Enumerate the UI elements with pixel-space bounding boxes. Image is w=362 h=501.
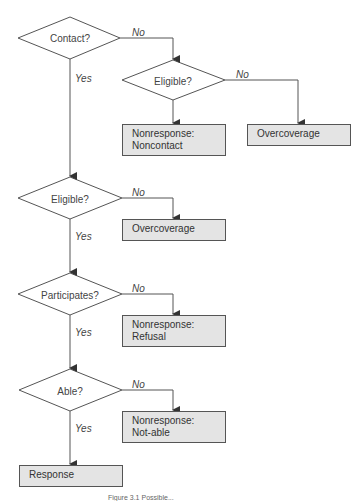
decision-contact-label: Contact? xyxy=(50,33,90,44)
edge-label-eligible-yes: Yes xyxy=(75,231,92,242)
outcome-line2: Noncontact xyxy=(132,140,225,152)
outcome-line1: Overcoverage xyxy=(132,223,225,235)
decision-able-label: Able? xyxy=(57,386,83,397)
figure-caption: Figure 3.1 Possible... xyxy=(108,494,174,501)
outcome-overcoverage-2: Overcoverage xyxy=(122,219,226,241)
outcome-line1: Response xyxy=(29,469,122,481)
outcome-line2: Refusal xyxy=(132,331,225,343)
edge-label-eligible-no: No xyxy=(132,187,145,198)
outcome-line2: Not-able xyxy=(132,427,225,439)
edge-label-participates-yes: Yes xyxy=(75,327,92,338)
edge-label-contact-yes: Yes xyxy=(75,73,92,84)
outcome-line1: Nonresponse: xyxy=(132,319,225,331)
outcome-response: Response xyxy=(19,465,123,487)
edge-label-participates-no: No xyxy=(132,283,145,294)
decision-eligible-noncontact-label: Eligible? xyxy=(154,76,192,87)
edge-label-able-no: No xyxy=(132,379,145,390)
outcome-line1: Nonresponse: xyxy=(132,128,225,140)
decision-participates-label: Participates? xyxy=(41,290,99,301)
outcome-line1: Nonresponse: xyxy=(132,415,225,427)
edge-label-eligible-noncontact-no: No xyxy=(236,69,249,80)
decision-eligible-label: Eligible? xyxy=(51,194,89,205)
outcome-line1: Overcoverage xyxy=(257,128,350,140)
edge-label-able-yes: Yes xyxy=(75,423,92,434)
outcome-overcoverage-1: Overcoverage xyxy=(247,124,351,146)
outcome-nonresponse-notable: Nonresponse: Not-able xyxy=(122,411,226,443)
edge-label-contact-no: No xyxy=(132,27,145,38)
outcome-nonresponse-noncontact: Nonresponse: Noncontact xyxy=(122,124,226,156)
outcome-nonresponse-refusal: Nonresponse: Refusal xyxy=(122,315,226,347)
